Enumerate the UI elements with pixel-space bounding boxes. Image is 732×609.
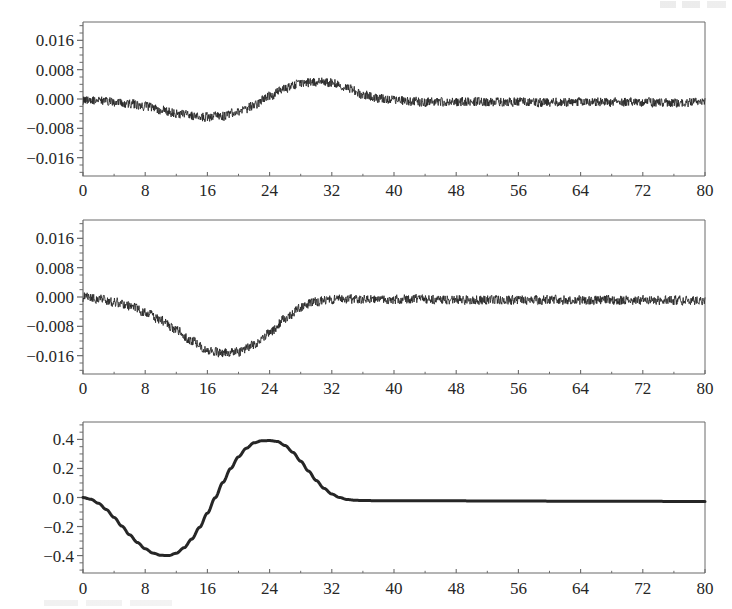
svg-text:0.000: 0.000 <box>36 90 74 109</box>
svg-text:48: 48 <box>448 579 465 598</box>
svg-text:0: 0 <box>79 579 88 598</box>
svg-text:64: 64 <box>572 579 590 598</box>
plot-svg-bottom: 0.40.20.0−0.2−0.408162432404856647280 <box>0 396 732 609</box>
svg-text:0.000: 0.000 <box>36 288 74 307</box>
figure-container: 0.0160.0080.000−0.008−0.0160816243240485… <box>0 0 732 609</box>
svg-text:0.016: 0.016 <box>36 31 74 50</box>
svg-text:0.4: 0.4 <box>53 430 75 449</box>
svg-text:−0.016: −0.016 <box>26 347 74 366</box>
svg-text:−0.016: −0.016 <box>26 149 74 168</box>
svg-text:0.008: 0.008 <box>36 61 74 80</box>
plot-svg-top: 0.0160.0080.000−0.008−0.0160816243240485… <box>0 0 732 205</box>
plot-panel-top: 0.0160.0080.000−0.008−0.0160816243240485… <box>0 0 732 205</box>
plot-panel-middle: 0.0160.0080.000−0.008−0.0160816243240485… <box>0 198 732 403</box>
scan-artifact-bottom-left <box>44 600 172 606</box>
svg-text:−0.008: −0.008 <box>26 119 74 138</box>
svg-text:−0.008: −0.008 <box>26 317 74 336</box>
svg-text:−0.4: −0.4 <box>43 547 74 566</box>
svg-text:0.2: 0.2 <box>53 459 74 478</box>
svg-text:0.016: 0.016 <box>36 229 74 248</box>
svg-text:0.0: 0.0 <box>53 489 74 508</box>
svg-text:40: 40 <box>386 579 403 598</box>
svg-text:56: 56 <box>510 579 527 598</box>
svg-text:80: 80 <box>697 579 714 598</box>
plot-panel-bottom: 0.40.20.0−0.2−0.408162432404856647280 <box>0 396 732 609</box>
svg-text:24: 24 <box>261 579 279 598</box>
svg-text:16: 16 <box>199 579 216 598</box>
svg-text:−0.2: −0.2 <box>43 518 74 537</box>
svg-text:72: 72 <box>634 579 651 598</box>
svg-text:0.008: 0.008 <box>36 259 74 278</box>
plot-svg-middle: 0.0160.0080.000−0.008−0.0160816243240485… <box>0 198 732 403</box>
svg-text:8: 8 <box>141 579 150 598</box>
svg-text:32: 32 <box>323 579 340 598</box>
